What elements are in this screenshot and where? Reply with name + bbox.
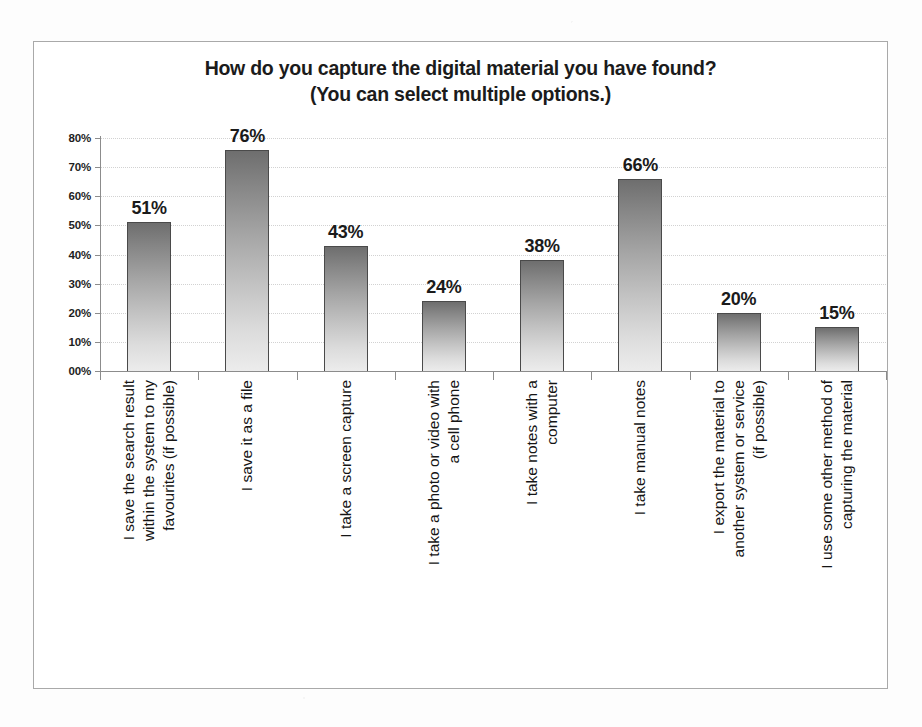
y-axis-tick-label: 30%	[69, 278, 91, 290]
chart-title-line-2: (You can select multiple options.)	[34, 81, 887, 107]
category-label-line: (if possible)	[749, 380, 769, 557]
category-label: I take a photo or video witha cell phone	[395, 380, 493, 680]
y-axis-tick-label: 00%	[69, 365, 91, 377]
x-axis-tick	[788, 371, 789, 380]
category-label-line: I save the search result	[119, 380, 139, 541]
bar-value-label: 43%	[328, 222, 363, 243]
category-labels: I save the search resultwithin the syste…	[100, 380, 886, 680]
chart-title-line-1: How do you capture the digital material …	[205, 57, 717, 79]
bar-slot: 24%	[395, 138, 493, 371]
category-label: I take notes with acomputer	[493, 380, 591, 680]
x-axis-tick	[591, 371, 592, 380]
bar-slot: 66%	[591, 138, 689, 371]
bar-slot: 43%	[297, 138, 395, 371]
y-axis-tick-label: 50%	[69, 219, 91, 231]
bar-value-label: 76%	[230, 126, 265, 147]
bar-value-label: 38%	[525, 236, 560, 257]
category-label-line: I take a photo or video with	[424, 380, 444, 565]
bar-value-label: 20%	[721, 289, 756, 310]
y-axis-tick-label: 80%	[69, 132, 91, 144]
bar-value-label: 24%	[426, 277, 461, 298]
x-axis-tick	[886, 371, 887, 380]
category-label: I use some other method ofcapturing the …	[788, 380, 886, 680]
chart-frame: How do you capture the digital material …	[33, 41, 888, 689]
x-axis-tick	[100, 371, 101, 380]
x-axis-tick	[493, 371, 494, 380]
category-label-line: a cell phone	[444, 380, 464, 565]
x-axis-tick	[690, 371, 691, 380]
screenshot-page: How do you capture the digital material …	[0, 0, 922, 727]
category-label: I take a screen capture	[297, 380, 395, 680]
x-axis-tick	[198, 371, 199, 380]
category-label-line: within the system to my	[139, 380, 159, 541]
bar-value-label: 51%	[132, 198, 167, 219]
category-label-line: I take notes with a	[522, 380, 542, 505]
bar[interactable]: 24%	[422, 301, 466, 371]
bar-slot: 51%	[100, 138, 198, 371]
category-label-text: I take a screen capture	[336, 380, 356, 538]
category-label: I take manual notes	[591, 380, 689, 680]
category-label: I save the search resultwithin the syste…	[100, 380, 198, 680]
bar[interactable]: 15%	[815, 327, 859, 371]
bar[interactable]: 43%	[324, 246, 368, 371]
category-label: I save it as a file	[198, 380, 296, 680]
category-label-line: capturing the material	[837, 380, 857, 569]
bar[interactable]: 51%	[127, 222, 171, 371]
category-label-line: favourites (if possible)	[159, 380, 179, 541]
y-axis-tick-label: 70%	[69, 161, 91, 173]
bar-value-label: 15%	[819, 303, 854, 324]
category-label: I export the material toanother system o…	[690, 380, 788, 680]
category-label-line: computer	[542, 380, 562, 505]
y-axis-tick-label: 60%	[69, 190, 91, 202]
category-label-text: I take notes with acomputer	[522, 380, 562, 505]
category-label-line: I save it as a file	[237, 380, 257, 491]
bar-slot: 15%	[788, 138, 886, 371]
bar-value-label: 66%	[623, 155, 658, 176]
category-label-text: I take manual notes	[630, 380, 650, 515]
category-label-text: I save the search resultwithin the syste…	[119, 380, 178, 541]
y-axis-tick-label: 10%	[69, 336, 91, 348]
bar-slot: 76%	[198, 138, 296, 371]
y-axis-tick-label: 20%	[69, 307, 91, 319]
bar[interactable]: 20%	[717, 313, 761, 371]
x-axis-tick	[395, 371, 396, 380]
bar-slot: 38%	[493, 138, 591, 371]
bar[interactable]: 38%	[520, 260, 564, 371]
category-label-line: another system or service	[729, 380, 749, 557]
category-label-text: I save it as a file	[237, 380, 257, 491]
category-label-line: I take manual notes	[630, 380, 650, 515]
category-label-text: I use some other method ofcapturing the …	[817, 380, 857, 569]
y-axis-tick-label: 40%	[69, 249, 91, 261]
plot-area: 80%70%60%50%40%30%20%10%00% 51%76%43%24%…	[100, 138, 886, 371]
category-label-text: I export the material toanother system o…	[709, 380, 768, 557]
category-label-line: I export the material to	[709, 380, 729, 557]
category-label-line: I use some other method of	[817, 380, 837, 569]
bar[interactable]: 66%	[618, 179, 662, 371]
category-label-line: I take a screen capture	[336, 380, 356, 538]
x-axis-tick	[297, 371, 298, 380]
category-label-text: I take a photo or video witha cell phone	[424, 380, 464, 565]
bar-slot: 20%	[690, 138, 788, 371]
bar[interactable]: 76%	[225, 150, 269, 371]
chart-title: How do you capture the digital material …	[34, 55, 887, 107]
